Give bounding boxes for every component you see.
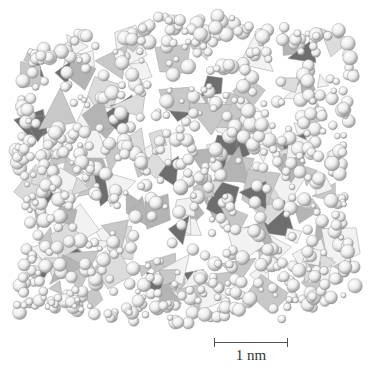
atom-sphere — [297, 48, 304, 55]
atom-sphere — [341, 293, 346, 298]
atom-sphere — [135, 156, 148, 169]
atom-sphere — [198, 307, 212, 321]
atom-sphere — [136, 113, 145, 122]
atom-sphere — [125, 68, 139, 82]
atom-sphere — [153, 12, 163, 22]
atom-sphere — [316, 215, 329, 228]
atom-sphere — [176, 133, 184, 141]
atom-sphere — [123, 190, 128, 195]
atom-sphere — [255, 258, 268, 271]
atom-sphere — [268, 283, 278, 293]
atom-sphere — [24, 182, 29, 187]
atom-sphere — [60, 82, 70, 92]
atom-sphere — [20, 172, 29, 181]
atom-sphere — [187, 244, 199, 256]
atom-sphere — [40, 77, 48, 85]
atom-sphere — [46, 214, 54, 222]
atom-sphere — [182, 44, 188, 50]
atom-sphere — [79, 126, 91, 138]
atom-sphere — [126, 262, 140, 276]
atom-sphere — [239, 64, 250, 75]
atom-sphere — [70, 99, 78, 107]
atom-sphere — [287, 279, 300, 292]
atom-sphere — [222, 111, 232, 121]
atom-sphere — [243, 292, 257, 306]
atom-sphere — [173, 206, 186, 219]
atom-sphere — [255, 118, 269, 132]
atom-sphere — [107, 235, 120, 248]
atom-sphere — [339, 87, 348, 96]
atom-sphere — [185, 39, 191, 45]
atom-sphere — [174, 15, 185, 26]
atom-sphere — [341, 245, 355, 259]
atom-sphere — [312, 32, 320, 40]
atom-sphere — [206, 83, 212, 89]
atom-sphere — [214, 294, 221, 301]
atom-sphere — [208, 278, 217, 287]
atom-sphere — [229, 15, 235, 21]
atom-sphere — [97, 253, 111, 267]
atom-sphere — [137, 37, 146, 46]
atom-sphere — [189, 86, 194, 91]
atom-sphere — [125, 242, 137, 254]
atom-sphere — [113, 49, 118, 54]
atom-sphere — [167, 238, 177, 248]
atom-sphere — [118, 82, 125, 89]
atom-sphere — [81, 64, 91, 74]
atom-sphere — [187, 90, 200, 103]
atom-sphere — [312, 172, 325, 185]
atom-sphere — [145, 263, 151, 269]
atom-sphere — [223, 92, 230, 99]
atom-sphere — [276, 34, 288, 46]
atom-sphere — [135, 289, 140, 294]
atom-sphere — [129, 210, 143, 224]
atom-sphere — [323, 31, 332, 40]
atom-sphere — [65, 202, 73, 210]
atom-sphere — [179, 99, 184, 104]
atom-sphere — [253, 130, 265, 142]
atom-sphere — [114, 106, 128, 120]
atom-sphere — [261, 110, 269, 118]
atom-sphere — [197, 286, 205, 294]
atom-sphere — [81, 97, 86, 102]
atom-sphere — [341, 132, 347, 138]
atom-sphere — [188, 108, 199, 119]
atom-sphere — [33, 230, 44, 241]
atom-sphere — [173, 56, 179, 62]
atom-sphere — [320, 249, 327, 256]
atom-sphere — [26, 298, 33, 305]
atom-sphere — [146, 273, 155, 282]
atom-sphere — [38, 166, 47, 175]
atom-sphere — [215, 169, 227, 181]
atom-sphere — [163, 112, 170, 119]
atom-sphere — [104, 310, 112, 318]
atom-sphere — [48, 299, 55, 306]
atom-sphere — [283, 211, 290, 218]
atom-sphere — [103, 137, 116, 150]
atom-sphere — [325, 156, 340, 171]
atom-sphere — [165, 159, 172, 166]
atom-sphere — [175, 270, 181, 276]
atom-sphere — [204, 48, 213, 57]
atom-sphere — [329, 273, 341, 285]
atom-sphere — [301, 74, 315, 88]
atom-sphere — [292, 263, 306, 277]
atom-sphere — [208, 21, 222, 35]
atom-sphere — [157, 146, 165, 154]
atom-sphere — [233, 26, 243, 36]
atom-sphere — [92, 42, 100, 50]
atom-sphere — [272, 157, 282, 167]
atom-sphere — [255, 29, 270, 44]
atom-sphere — [209, 217, 215, 223]
atom-sphere — [232, 303, 245, 316]
atom-sphere — [304, 108, 317, 121]
atom-sphere — [78, 306, 84, 312]
atom-sphere — [265, 55, 273, 63]
atom-sphere — [70, 37, 79, 46]
atom-sphere — [348, 279, 362, 293]
atom-sphere — [186, 286, 194, 294]
atom-sphere — [258, 163, 268, 173]
atom-sphere — [165, 17, 173, 25]
atom-sphere — [30, 172, 36, 178]
atom-sphere — [117, 123, 129, 135]
